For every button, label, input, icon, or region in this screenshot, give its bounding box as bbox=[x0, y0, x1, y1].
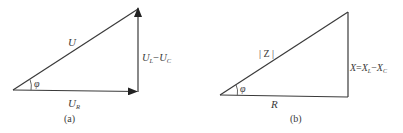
phasor-diagrams: U φ UR UL−UC (a) | Z | φ R X=XL−XC (b) bbox=[0, 0, 403, 133]
label-ul-minus-uc: UL−UC bbox=[142, 52, 172, 64]
voltage-base-ur-arrow bbox=[13, 90, 137, 92]
caption-a: (a) bbox=[64, 113, 75, 125]
caption-b: (b) bbox=[290, 113, 302, 125]
angle-phi-a: φ bbox=[34, 78, 40, 89]
label-ur: UR bbox=[68, 97, 80, 110]
label-abs-z: | Z | bbox=[259, 48, 274, 59]
voltage-hypotenuse-u bbox=[13, 9, 138, 90]
voltage-triangle-panel: U φ UR UL−UC (a) bbox=[13, 8, 172, 125]
label-r: R bbox=[270, 98, 278, 110]
label-u: U bbox=[68, 36, 77, 48]
label-x-equals-xl-minus-xc: X=XL−XC bbox=[349, 62, 388, 74]
impedance-base-r bbox=[220, 95, 348, 97]
angle-arc-a bbox=[30, 80, 31, 91]
impedance-triangle-panel: | Z | φ R X=XL−XC (b) bbox=[220, 12, 388, 125]
angle-phi-b: φ bbox=[240, 83, 246, 94]
angle-arc-b bbox=[236, 85, 238, 96]
